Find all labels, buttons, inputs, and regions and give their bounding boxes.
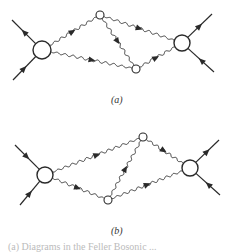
diagram-b-bottom-vertex bbox=[104, 196, 112, 204]
diagram-b-propagator-left-vertex-to-top-vertex-arrow-icon bbox=[93, 153, 101, 159]
diagram-a-top-vertex bbox=[96, 11, 104, 19]
diagram-b-right-vertex bbox=[182, 160, 198, 176]
diagram-a-propagator-top-vertex-to-bottom-vertex-arrow-icon bbox=[113, 37, 119, 44]
diagram-a-label: (a) bbox=[111, 94, 123, 105]
diagram-b-propagator-bottom-vertex-to-right-vertex-arrow-icon bbox=[143, 183, 151, 189]
diagram-a-bottom-vertex bbox=[132, 65, 140, 73]
diagram-b-left-vertex bbox=[37, 167, 53, 183]
diagram-a-propagator-top-vertex-to-right-vertex-arrow-icon bbox=[135, 24, 143, 30]
diagram-b-top-vertex bbox=[139, 133, 147, 141]
figure-caption: (a) Diagrams in the Feller Bosonic ... bbox=[8, 241, 157, 252]
diagram-a-left-vertex bbox=[33, 41, 51, 59]
diagram-b-label: (b) bbox=[111, 225, 123, 236]
diagram-b-propagator-left-vertex-to-bottom-vertex-arrow-icon bbox=[73, 184, 81, 190]
feynman-diagrams bbox=[0, 0, 234, 252]
diagram-a-right-vertex bbox=[174, 35, 190, 51]
